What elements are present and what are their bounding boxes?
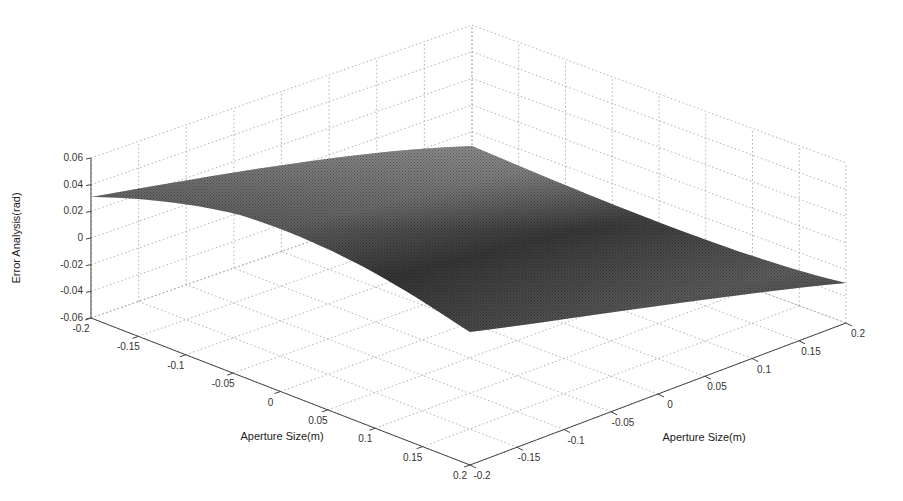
x-tick-label: -0.2 bbox=[72, 323, 90, 334]
x-tick-label: 0.15 bbox=[403, 452, 423, 463]
z-tick-label: 0.06 bbox=[64, 152, 84, 163]
y-tick-label: 0.2 bbox=[851, 328, 865, 339]
surface-chart: -0.06-0.04-0.0200.020.040.06 -0.2-0.15-0… bbox=[0, 0, 903, 501]
y-tick-label: -0.05 bbox=[612, 417, 635, 428]
x-tick-label: 0.1 bbox=[358, 433, 372, 444]
x-axis-label: Aperture Size(m) bbox=[240, 430, 323, 442]
z-tick-label: 0.02 bbox=[64, 205, 84, 216]
y-axis-ticks: -0.2-0.15-0.1-0.0500.050.10.150.2 bbox=[470, 323, 865, 481]
z-tick-label: -0.02 bbox=[60, 259, 83, 270]
y-tick-label: 0.15 bbox=[801, 346, 821, 357]
y-tick-label: 0 bbox=[667, 399, 673, 410]
x-tick-label: 0.05 bbox=[308, 415, 328, 426]
x-axis-ticks: -0.2-0.15-0.1-0.0500.050.10.150.2 bbox=[72, 318, 470, 481]
x-tick-label: -0.05 bbox=[212, 378, 235, 389]
surface-plot bbox=[91, 146, 846, 332]
x-tick-label: -0.1 bbox=[167, 360, 185, 371]
x-tick-label: 0 bbox=[268, 397, 274, 408]
y-tick-label: -0.15 bbox=[518, 452, 541, 463]
y-tick-label: -0.1 bbox=[567, 435, 585, 446]
y-axis-label: Aperture Size(m) bbox=[662, 431, 745, 443]
z-tick-label: 0 bbox=[77, 232, 83, 243]
z-axis-ticks: -0.06-0.04-0.0200.020.040.06 bbox=[60, 152, 91, 323]
x-tick-label: 0.2 bbox=[453, 470, 467, 481]
x-tick-label: -0.15 bbox=[117, 341, 140, 352]
z-tick-label: -0.06 bbox=[60, 312, 83, 323]
y-tick-label: 0.1 bbox=[757, 364, 771, 375]
y-tick-label: -0.2 bbox=[473, 470, 491, 481]
z-axis-label: Error Analysis(rad) bbox=[10, 192, 22, 283]
y-tick-label: 0.05 bbox=[707, 381, 727, 392]
z-tick-label: -0.04 bbox=[60, 285, 83, 296]
z-tick-label: 0.04 bbox=[64, 179, 84, 190]
